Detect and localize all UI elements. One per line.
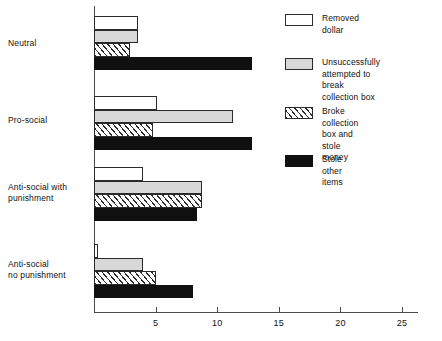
x-tick-label-25: 25 [397,318,407,328]
bar-g1-black [94,137,252,151]
x-tick-mark-25 [402,307,403,313]
bar-g3-hatched [94,271,156,285]
x-axis-line [94,312,418,313]
plot-area [94,6,424,311]
legend-swatch-black-icon [285,155,313,167]
x-tick-mark-15 [279,307,280,313]
category-label-neutral: Neutral [8,38,36,49]
legend-swatch-hatched-icon [285,107,313,119]
legend-swatch-gray-icon [285,58,313,70]
bar-g0-open [94,16,138,30]
bar-g2-hatched [94,194,202,208]
legend-label-stole-other-items: Stole other items [322,154,343,189]
category-label-anti-social-no-punishment: Anti-social no punishment [8,259,66,281]
bar-g0-hatched [94,43,130,57]
bar-g2-open [94,167,143,181]
legend-label-unsuccessful-attempt: Unsuccessfully attempted to break collec… [322,57,380,103]
bar-g0-black [94,57,252,71]
bar-g1-open [94,96,157,110]
x-tick-mark-10 [217,307,218,313]
x-tick-label-10: 10 [212,318,222,328]
category-label-anti-social-with-punishment: Anti-social with punishment [8,182,67,204]
x-tick-mark-20 [340,307,341,313]
bar-g3-open [94,244,98,258]
category-label-pro-social: Pro-social [8,115,47,126]
legend-label-removed-dollar: Removed dollar [322,13,359,36]
bar-g1-gray [94,110,233,124]
x-tick-label-15: 15 [274,318,284,328]
bar-g3-black [94,285,193,299]
bar-g1-hatched [94,123,153,137]
legend-swatch-open-icon [285,14,313,26]
bar-g2-gray [94,181,202,195]
x-tick-label-20: 20 [335,318,345,328]
bar-g3-gray [94,258,143,272]
bar-chart: Neutral Pro-social Anti-social with puni… [0,0,442,341]
x-tick-mark-5 [156,307,157,313]
bar-g2-black [94,208,197,222]
x-tick-label-5: 5 [153,318,158,328]
bar-g0-gray [94,30,138,44]
